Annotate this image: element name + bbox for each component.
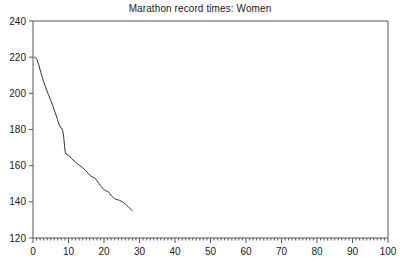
y-tick-label: 220 [9,52,26,63]
x-tick-label: 50 [205,246,217,257]
x-tick-label: 60 [240,246,252,257]
y-tick-label: 160 [9,160,26,171]
y-tick-label: 240 [9,16,26,27]
x-tick-label: 20 [98,246,110,257]
x-axis-ticks: 0102030405060708090100 [30,238,397,257]
x-tick-label: 90 [347,246,359,257]
y-tick-label: 120 [9,233,26,244]
x-tick-label: 0 [30,246,36,257]
chart-figure: Marathon record times: Women 12014016018… [0,0,400,269]
x-tick-label: 80 [311,246,323,257]
x-tick-label: 40 [169,246,181,257]
y-tick-label: 200 [9,88,26,99]
chart-plot-area: 120140160180200220240 010203040506070809… [0,0,400,269]
y-axis-ticks: 120140160180200220240 [9,16,33,244]
x-tick-label: 10 [63,246,75,257]
plot-background [33,21,388,238]
x-tick-label: 70 [276,246,288,257]
y-tick-label: 140 [9,196,26,207]
x-tick-label: 30 [134,246,146,257]
y-tick-label: 180 [9,124,26,135]
x-tick-label: 100 [380,246,397,257]
